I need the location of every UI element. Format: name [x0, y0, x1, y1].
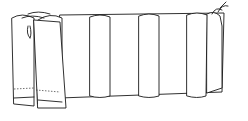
left-inner-panel — [34, 20, 66, 108]
pleat-3 — [187, 13, 207, 98]
pleated-fabric-drawing — [0, 0, 248, 121]
illustration-canvas — [0, 0, 248, 121]
pleat-2 — [139, 14, 159, 98]
right-end-flap — [207, 12, 222, 93]
pleat-1 — [90, 15, 110, 98]
